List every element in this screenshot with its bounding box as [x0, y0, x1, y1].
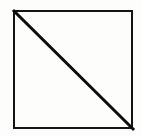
square-with-diagonal-figure: Square with diagonal: [0, 0, 142, 136]
diagonal-line: [14, 11, 133, 129]
figure-canvas: Square with diagonal: [0, 0, 142, 136]
